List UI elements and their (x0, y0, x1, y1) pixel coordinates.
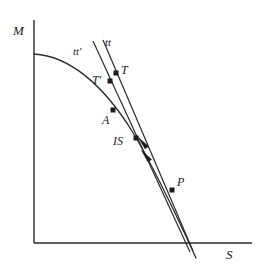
point-marker-IS (134, 136, 139, 141)
tt-prime-label: tt' (73, 46, 81, 57)
tt-prime-line (93, 41, 190, 252)
point-label-P: P (177, 176, 184, 188)
point-label-T: T (121, 64, 128, 76)
tt-label: tt (105, 37, 111, 48)
point-label-IS: IS (113, 135, 123, 147)
point-marker-A (111, 108, 116, 113)
arrow-lower (142, 151, 152, 162)
point-marker-T-prime (108, 79, 113, 84)
y-axis-label: M (13, 24, 24, 37)
point-label-T-prime: T' (92, 74, 101, 86)
frontier-curve (34, 54, 196, 258)
x-axis-label: S (226, 248, 233, 261)
point-marker-P (170, 188, 175, 193)
economics-diagram: M S tt' tt T T' A IS P (0, 0, 266, 270)
diagram-canvas (0, 0, 266, 270)
point-label-A: A (102, 114, 109, 126)
point-marker-T (114, 71, 119, 76)
